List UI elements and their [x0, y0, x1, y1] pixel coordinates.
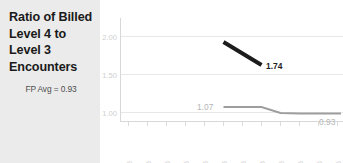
x-tick-label: Sep-15 [220, 161, 229, 163]
series-provider-line [224, 42, 262, 65]
x-tick-label: Jul-15 [182, 161, 191, 163]
y-axis-labels: 2.00 1.50 1.00 [102, 33, 117, 118]
y-tick-label: 2.00 [102, 33, 117, 42]
chart-widget: Ratio of Billed Level 4 to Level 3 Encou… [0, 0, 343, 163]
x-tick-label: Feb-16 [315, 161, 324, 163]
info-panel: Ratio of Billed Level 4 to Level 3 Encou… [0, 0, 100, 163]
line-chart-svg: 2.00 1.50 1.00 [100, 0, 343, 163]
y-tick-label: 1.50 [102, 71, 117, 80]
dark-end-value-label: 1.74 [266, 61, 283, 71]
panel-subtitle: FP Avg = 0.93 [9, 84, 93, 94]
gray-end-value-label: 0.93 [319, 117, 336, 127]
x-tick-label: Oct-15 [239, 161, 248, 163]
x-tick-label: Mar-16 [334, 161, 343, 163]
x-tick-label: Dec-15 [277, 161, 286, 163]
x-tick-label: Apr-15 [125, 161, 134, 163]
chart-plot-area: 2.00 1.50 1.00 [100, 0, 343, 163]
gray-start-value-label: 1.07 [197, 102, 214, 112]
x-tick-label: May-15 [144, 161, 153, 163]
x-axis-ticks [129, 122, 338, 126]
x-tick-label: Jun-15 [163, 161, 172, 163]
page-title: Ratio of Billed Level 4 to Level 3 Encou… [9, 9, 93, 75]
x-axis-labels: Apr-15 May-15 Jun-15 Jul-15 Aug-15 Sep-1… [125, 161, 343, 163]
x-tick-label: Nov-15 [258, 161, 267, 163]
x-tick-label: Aug-15 [201, 161, 210, 163]
y-tick-label: 1.00 [102, 109, 117, 118]
x-tick-label: Jan-16 [296, 161, 305, 163]
